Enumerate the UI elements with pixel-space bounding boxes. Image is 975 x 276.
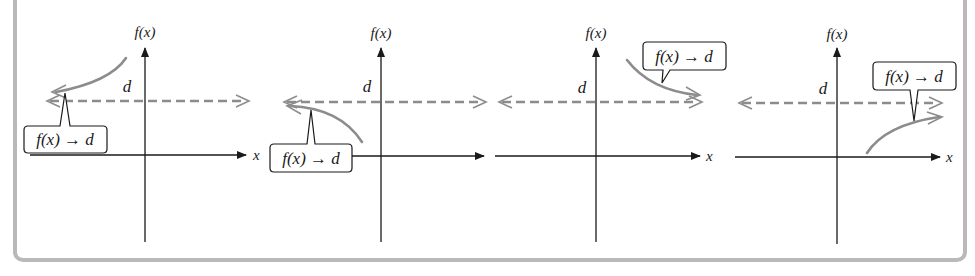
panel-1: f(x) x d f(x) → d bbox=[24, 24, 260, 242]
asymptote-label: d bbox=[819, 79, 828, 98]
callout-text: f(x) → d bbox=[282, 149, 340, 168]
panel-2: f(x) d f(x) → d bbox=[270, 25, 486, 242]
asymptote-label: d bbox=[363, 77, 372, 96]
function-curve bbox=[290, 106, 362, 142]
function-curve bbox=[56, 58, 126, 92]
asymptote-label: d bbox=[578, 78, 587, 97]
asymptote-label: d bbox=[123, 77, 132, 96]
x-axis-label: x bbox=[945, 149, 953, 165]
callout-text: f(x) → d bbox=[36, 130, 94, 149]
callout-text: f(x) → d bbox=[655, 47, 713, 66]
asymptote-diagram: f(x) x d f(x) → d f(x) d f(x) → d bbox=[0, 0, 975, 276]
y-axis-label: f(x) bbox=[371, 25, 392, 42]
callout: f(x) → d bbox=[873, 62, 956, 121]
panel-4: f(x) x d f(x) → d bbox=[735, 26, 956, 244]
function-curve bbox=[867, 117, 939, 153]
x-axis-label: x bbox=[705, 148, 713, 164]
y-axis-label: f(x) bbox=[827, 26, 848, 43]
callout-text: f(x) → d bbox=[885, 67, 943, 86]
x-axis-label: x bbox=[252, 147, 260, 163]
callout: f(x) → d bbox=[643, 42, 726, 83]
y-axis-label: f(x) bbox=[135, 24, 156, 41]
y-axis-label: f(x) bbox=[586, 25, 607, 42]
panel-3: f(x) x d f(x) → d bbox=[495, 25, 726, 242]
